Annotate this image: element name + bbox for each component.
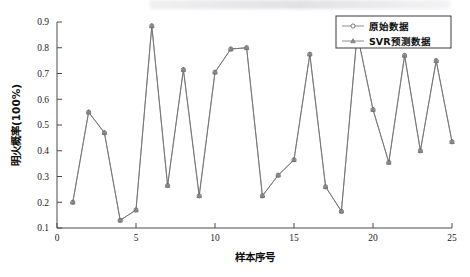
- legend-marker-circle-icon: [351, 24, 355, 28]
- y-axis-title: 明火概率(100%): [10, 84, 22, 166]
- y-axis-tick-label: 0.5: [37, 120, 49, 130]
- line-chart-svg: 0.10.20.30.40.50.60.70.80.90510152025样本序…: [0, 0, 470, 277]
- y-axis-tick-label: 0.8: [37, 43, 49, 53]
- legend-label-1: 原始数据: [369, 21, 409, 32]
- x-axis-title: 样本序号: [235, 251, 275, 263]
- x-axis-tick-label: 15: [289, 233, 299, 243]
- y-axis-tick-label: 0.3: [37, 172, 49, 182]
- series-line-2: [73, 26, 452, 220]
- y-axis-tick-label: 0.1: [37, 223, 49, 233]
- y-axis-tick-label: 0.9: [37, 17, 49, 27]
- x-axis-tick-label: 0: [55, 233, 60, 243]
- chart-legend[interactable]: 原始数据SVR预测数据: [336, 16, 451, 48]
- y-axis-tick-label: 0.4: [37, 146, 49, 156]
- y-axis-tick-label: 0.7: [37, 69, 49, 79]
- series-line-1: [73, 26, 452, 220]
- y-axis-tick-label: 0.6: [37, 95, 49, 105]
- x-axis-tick-label: 20: [368, 233, 378, 243]
- chart-figure: 0.10.20.30.40.50.60.70.80.90510152025样本序…: [0, 0, 470, 277]
- x-axis-tick-label: 5: [134, 233, 139, 243]
- x-axis-tick-label: 10: [210, 233, 220, 243]
- x-axis-tick-label: 25: [447, 233, 457, 243]
- y-axis-tick-label: 0.2: [37, 198, 49, 208]
- cropped-caption-artifact: [150, 0, 450, 9]
- legend-label-2: SVR预测数据: [369, 36, 431, 47]
